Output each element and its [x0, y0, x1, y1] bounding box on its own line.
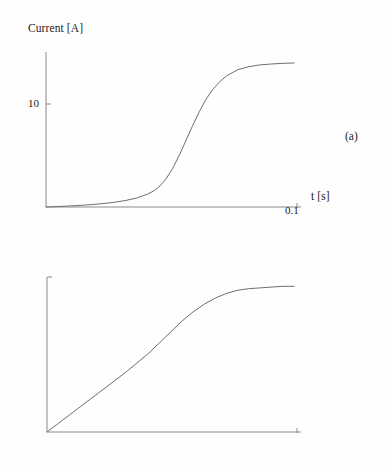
x-tick-label-a: 0.1 — [285, 204, 299, 216]
panel-letter-a: (a) — [345, 130, 358, 142]
y-axis-label-a: Current [A] — [28, 22, 83, 34]
x-axis-label-a: t [s] — [311, 190, 330, 202]
chart-panel-a: Current [A] 10 0.1 t [s] (a) — [0, 0, 388, 235]
figure-root: Current [A] 10 0.1 t [s] (a) Flux [Vs] 0… — [0, 0, 388, 465]
current-curve — [46, 63, 294, 207]
plot-a-canvas — [0, 0, 388, 235]
chart-panel-b: Flux [Vs] 0.002 0.1 t [s] (b) — [0, 235, 388, 465]
y-tick-label-a: 10 — [28, 97, 39, 109]
plot-b-canvas — [0, 235, 388, 465]
flux-curve — [47, 286, 294, 432]
